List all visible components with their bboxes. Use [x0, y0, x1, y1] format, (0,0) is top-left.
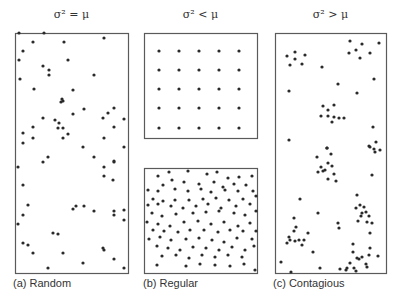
point: [289, 270, 292, 273]
point: [122, 266, 125, 269]
point: [367, 214, 370, 217]
panel-b: [145, 34, 258, 274]
point: [213, 255, 216, 258]
point: [156, 189, 159, 192]
point: [334, 179, 337, 182]
point: [372, 147, 375, 150]
point: [226, 176, 229, 179]
point: [248, 221, 251, 224]
point: [316, 211, 319, 214]
point: [368, 231, 371, 234]
point: [161, 183, 164, 186]
point: [216, 230, 219, 233]
point: [17, 31, 20, 34]
point: [57, 121, 60, 124]
point: [209, 190, 212, 193]
point: [237, 175, 240, 178]
point: [223, 188, 226, 191]
point: [298, 197, 301, 200]
point: [288, 63, 291, 66]
point: [244, 183, 247, 186]
point: [351, 242, 354, 245]
point: [156, 174, 159, 177]
point: [240, 255, 243, 258]
point: [219, 206, 222, 209]
point: [302, 238, 305, 241]
point: [81, 261, 84, 264]
point: [198, 262, 201, 265]
point: [236, 224, 239, 227]
point: [47, 68, 50, 71]
point: [122, 145, 125, 148]
point: [157, 126, 160, 129]
point: [357, 257, 360, 260]
point: [62, 40, 65, 43]
point: [177, 106, 180, 109]
point: [215, 170, 218, 173]
point: [41, 116, 44, 119]
point: [197, 68, 200, 71]
point: [147, 237, 150, 240]
point: [59, 100, 62, 103]
point: [365, 265, 368, 268]
caption-random: (a) Random: [13, 277, 71, 289]
point: [197, 126, 200, 129]
point: [151, 228, 154, 231]
point: [18, 77, 21, 80]
point: [325, 146, 328, 149]
point: [92, 155, 95, 158]
point: [21, 183, 24, 186]
point: [157, 106, 160, 109]
point: [177, 126, 180, 129]
panel-a: [16, 31, 129, 273]
point: [332, 172, 335, 175]
point: [61, 251, 64, 254]
point: [243, 213, 246, 216]
point: [237, 49, 240, 52]
title-random: σ² = μ: [15, 8, 128, 21]
point: [150, 211, 153, 214]
point: [194, 204, 197, 207]
point: [158, 235, 161, 238]
point: [16, 222, 19, 225]
point: [358, 56, 361, 59]
panel-a-box-0: [16, 34, 129, 274]
point: [326, 161, 329, 164]
point: [347, 51, 350, 54]
point: [176, 230, 179, 233]
point: [168, 224, 171, 227]
point: [204, 210, 207, 213]
point: [71, 207, 74, 210]
point: [370, 221, 373, 224]
point: [66, 132, 69, 135]
point: [250, 237, 253, 240]
point: [321, 104, 324, 107]
point: [186, 189, 189, 192]
point: [354, 206, 357, 209]
point: [378, 148, 381, 151]
point: [157, 87, 160, 90]
point: [316, 170, 319, 173]
point: [336, 82, 339, 85]
point: [31, 136, 34, 139]
point: [235, 236, 238, 239]
point: [365, 220, 368, 223]
point: [279, 260, 282, 263]
point: [360, 255, 363, 258]
point: [157, 68, 160, 71]
point: [362, 205, 365, 208]
point: [252, 244, 255, 247]
point: [377, 41, 380, 44]
point: [360, 42, 363, 45]
point: [31, 125, 34, 128]
point: [111, 178, 114, 181]
point: [217, 106, 220, 109]
point: [122, 218, 125, 221]
point: [156, 222, 159, 225]
point: [368, 51, 371, 54]
title-contagious: σ² > μ: [275, 8, 386, 21]
point: [181, 206, 184, 209]
point: [182, 180, 185, 183]
panel-c: [276, 34, 387, 274]
point: [187, 256, 190, 259]
